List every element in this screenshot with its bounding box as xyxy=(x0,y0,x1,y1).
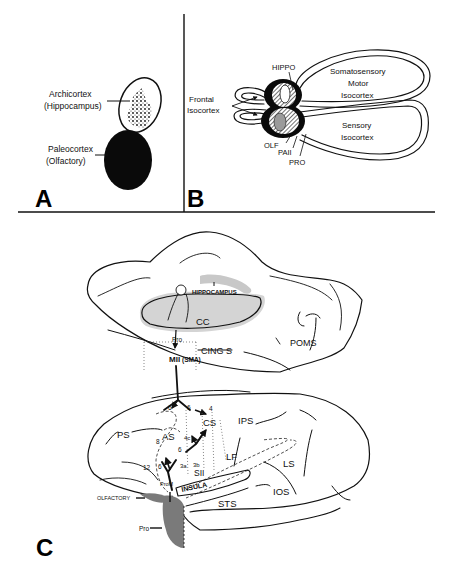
lateral-brain-view: PS AS CS IPS LF LS IOS STS INSULA SII OL… xyxy=(88,390,369,548)
area-3a-label: 3a xyxy=(180,463,187,469)
cingulate-sulcus xyxy=(108,330,290,370)
medial-gyrus-right2 xyxy=(330,284,342,330)
sensory-loop-inner xyxy=(302,106,422,154)
area4c-arrow-b xyxy=(196,430,206,444)
area-3b-label: 3b xyxy=(193,462,200,468)
panel-letter-c: C xyxy=(36,534,53,561)
olfactory-label: (Olfactory) xyxy=(46,156,86,166)
pro-label-medial: Pro xyxy=(172,336,183,343)
cing-s-label: CING S xyxy=(201,346,232,356)
somatosensory-isocortex-label: Isocortex xyxy=(341,91,373,100)
sensory-label: Sensory xyxy=(342,121,371,130)
sma-label: (SMA) xyxy=(182,356,201,364)
medial-gyrus-top xyxy=(180,253,220,263)
frontal-loop-upper-inner xyxy=(242,93,266,100)
intraparietal-sulcus xyxy=(256,410,316,424)
pro-label-lateral: Pro xyxy=(139,525,150,532)
olfactory-label-c: OLFACTORY xyxy=(97,495,130,501)
frontal-label: Frontal xyxy=(189,95,214,104)
insula-outline xyxy=(176,470,250,496)
pro-label: PRO xyxy=(289,158,305,167)
s2-label: SII xyxy=(194,468,204,478)
hippo-core xyxy=(280,85,290,103)
panel-letter-a: A xyxy=(35,185,52,212)
olf-core xyxy=(274,113,286,131)
pro-leader xyxy=(300,134,306,156)
area4c-arrow xyxy=(192,436,196,444)
m2-arrow-b xyxy=(195,410,206,414)
area-12-label: 12 xyxy=(143,464,151,471)
area-8-label: 8 xyxy=(156,438,160,445)
area-6b-label: 6 xyxy=(187,404,191,411)
paleocortex-oval xyxy=(104,130,152,190)
hippocampus-label: (Hippocampus) xyxy=(44,101,102,111)
medial-brain-view: HIPPOCAMPUS CC Pro CING S MII (SMA) POMS xyxy=(87,232,362,372)
area-6c-label: 6 xyxy=(178,446,182,453)
panel-b: HIPPO Somatosensory Motor Isocortex Fron… xyxy=(187,50,430,212)
ls-label: LS xyxy=(283,458,295,469)
ios-label: IOS xyxy=(273,486,289,497)
area-4-label: 4 xyxy=(209,405,213,412)
frontal-isocortex-label: Isocortex xyxy=(187,106,219,115)
lunate-sulcus xyxy=(304,430,312,476)
olf-label: OLF xyxy=(264,141,279,150)
area-4c-label: 4c xyxy=(184,435,190,441)
poms-label: POMS xyxy=(290,338,317,348)
cc-label: CC xyxy=(196,316,210,327)
fornix-circle xyxy=(176,285,186,295)
panel-a: Archicortex (Hippocampus) Paleocortex (O… xyxy=(35,72,168,212)
archicortex-label: Archicortex xyxy=(49,89,92,99)
motor-label: Motor xyxy=(348,79,369,88)
pro-region-shading xyxy=(163,496,184,548)
proM-label: ProM xyxy=(160,481,174,487)
lf-label: LF xyxy=(226,451,237,462)
figure-canvas: Archicortex (Hippocampus) Paleocortex (O… xyxy=(0,0,449,567)
sts-label: STS xyxy=(218,498,236,509)
panel-letter-b: B xyxy=(187,185,204,212)
principal-sulcus xyxy=(106,429,162,444)
ps-label: PS xyxy=(117,429,130,440)
pa2-leader xyxy=(293,136,297,148)
hippo-label: HIPPO xyxy=(272,63,296,72)
panel-c: HIPPOCAMPUS CC Pro CING S MII (SMA) POMS xyxy=(36,232,369,561)
insula-label: INSULA xyxy=(181,481,208,493)
as-label: AS xyxy=(162,431,175,442)
somatosensory-label: Somatosensory xyxy=(330,67,386,76)
paleocortex-label: Paleocortex xyxy=(48,144,94,154)
area-6a-label: 6 xyxy=(168,404,172,411)
hippocampus-label-c: HIPPOCAMPUS xyxy=(192,289,237,295)
arcuate-sulcus xyxy=(156,411,176,492)
area-6d-label: 6 xyxy=(158,463,162,470)
pa2-label: PAII xyxy=(278,148,292,157)
medial-gyrus-left xyxy=(98,278,150,296)
medial-tick xyxy=(276,338,280,344)
ips-label: IPS xyxy=(238,415,253,426)
cs-label: CS xyxy=(203,417,216,428)
sensory-isocortex-label: Isocortex xyxy=(341,133,373,142)
m2-label: MII xyxy=(169,355,180,364)
